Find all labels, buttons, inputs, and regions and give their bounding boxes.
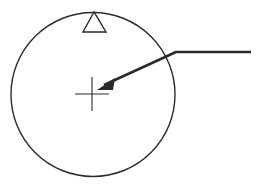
arrowhead-icon [97, 78, 115, 90]
diagram [0, 0, 259, 186]
leader-line [104, 52, 251, 85]
center-cross-icon [75, 77, 109, 111]
triangle-marker-icon [83, 12, 106, 32]
diagram-canvas [0, 0, 259, 186]
